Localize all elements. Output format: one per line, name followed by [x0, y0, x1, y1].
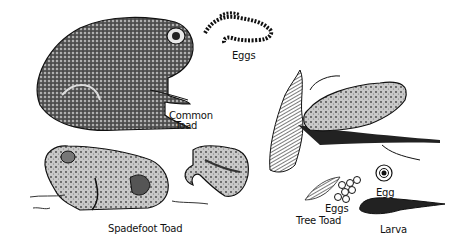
- single-egg: [376, 165, 392, 181]
- label-tree-toad: Tree Toad: [296, 216, 341, 226]
- spadefoot-toad: [30, 146, 208, 210]
- label-common-toad-line2: Toad: [175, 121, 197, 131]
- label-tree-eggs: Eggs: [325, 204, 348, 214]
- common-toad-egg-string: [205, 13, 271, 44]
- illustration-artwork: [0, 0, 473, 246]
- label-egg: Egg: [376, 188, 394, 198]
- tree-toad-on-branch: [270, 70, 440, 172]
- label-common-eggs: Eggs: [232, 51, 255, 61]
- spadefoot-hind-foot: [185, 146, 248, 196]
- label-larva: Larva: [380, 225, 407, 235]
- tree-toad-egg-cluster: [305, 177, 361, 203]
- label-spadefoot-toad: Spadefoot Toad: [108, 224, 182, 234]
- larva: [360, 198, 445, 214]
- toad-illustration: Common Toad Eggs Spadefoot Toad Tree Toa…: [0, 0, 473, 246]
